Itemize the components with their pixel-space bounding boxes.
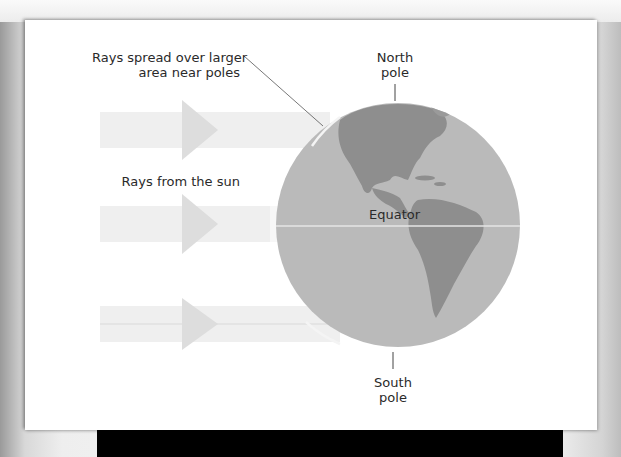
north-pole-label: North pole [360,50,430,80]
middle-ray-arrow [100,194,278,254]
rays-from-sun-label: Rays from the sun [100,174,240,189]
equator-label: Equator [369,207,420,222]
north-pole-label-line1: North [360,50,430,65]
north-pole-label-line2: pole [360,65,430,80]
upper-ray-arrow [100,100,330,160]
south-pole-label-line1: South [358,375,428,390]
rays-spread-label-line1: Rays spread over larger [92,50,240,65]
south-pole-label: South pole [358,375,428,405]
lower-ray-arrow [100,298,340,350]
rays-spread-label: Rays spread over larger area near poles [92,50,240,80]
south-pole-label-line2: pole [358,390,428,405]
rays-spread-label-line2: area near poles [92,65,240,80]
globe [276,102,520,347]
